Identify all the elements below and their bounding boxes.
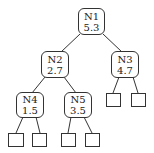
tree-node-n2: N2 2.7: [41, 51, 69, 78]
tree-edge: [113, 77, 119, 93]
node-label: N2: [47, 54, 62, 65]
tree-edge: [68, 117, 71, 133]
tree-edge: [32, 77, 45, 93]
leaf-node: [8, 133, 24, 147]
node-label: N5: [70, 94, 85, 105]
tree-edge: [61, 34, 80, 52]
tree-node-n1: N1 5.3: [78, 8, 105, 35]
tree-edge: [133, 77, 138, 93]
tree-node-n3: N3 4.7: [111, 51, 139, 78]
node-value: 3.5: [70, 105, 86, 116]
tree-node-n5: N5 3.5: [64, 92, 92, 118]
tree-edge: [84, 117, 92, 133]
leaf-node: [85, 133, 100, 147]
tree-node-n4: N4 1.5: [16, 92, 44, 118]
node-value: 4.7: [117, 65, 133, 76]
node-label: N4: [22, 94, 37, 105]
tree-diagram: N1 5.3 N2 2.7 N3 4.7 N4 1.5 N5 3.5: [0, 0, 154, 153]
leaf-node: [61, 133, 76, 147]
leaf-node: [106, 93, 121, 107]
tree-edge: [64, 77, 76, 93]
leaf-node: [131, 93, 146, 107]
node-label: N3: [117, 54, 132, 65]
node-value: 2.7: [47, 65, 63, 76]
tree-edge: [103, 34, 122, 52]
tree-edge: [16, 117, 23, 133]
node-value: 1.5: [22, 105, 38, 116]
leaf-node: [32, 133, 47, 147]
node-label: N1: [84, 11, 99, 22]
tree-edge: [36, 117, 40, 133]
node-value: 5.3: [84, 22, 100, 33]
